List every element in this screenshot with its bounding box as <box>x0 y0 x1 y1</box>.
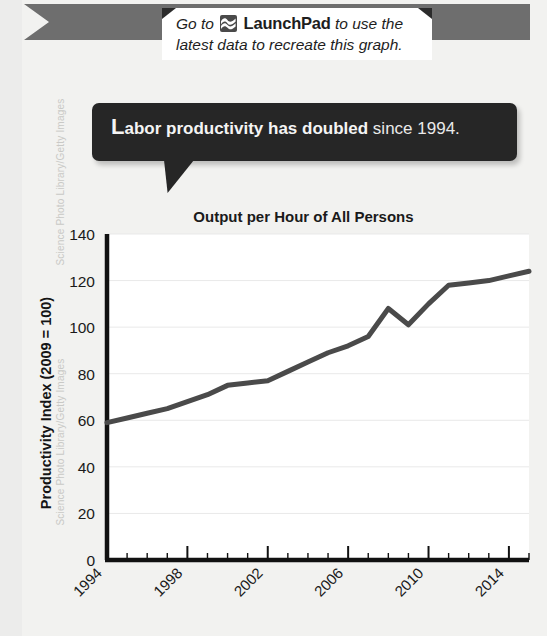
chart-y-tick-label: 40 <box>78 459 96 476</box>
chart-x-tick-label: 1994 <box>70 564 106 600</box>
chart-x-tick-label-group: 1998 <box>150 564 186 600</box>
chart-x-tick-label: 2010 <box>391 564 427 600</box>
chart-y-tick-label: 120 <box>69 273 95 290</box>
chart-x-tick-label-group: 1994 <box>70 564 106 600</box>
chart-x-tick-label-group: 2002 <box>230 564 266 600</box>
chart-y-tick-label: 100 <box>69 319 95 336</box>
chart-x-tick-label-group: 2014 <box>471 564 507 600</box>
chart-y-tick-label: 80 <box>78 366 96 383</box>
chart-x-tick-label: 2002 <box>230 564 266 600</box>
chart-y-tick-label: 20 <box>78 505 96 522</box>
chart-y-tick-label: 140 <box>69 226 95 243</box>
chart-y-tick-label: 60 <box>78 412 96 429</box>
chart-x-tick-label: 2014 <box>471 564 507 600</box>
chart-x-tick-label-group: 2006 <box>311 564 347 600</box>
chart-x-tick-label-group: 2010 <box>391 564 427 600</box>
chart-x-tick-label: 1998 <box>150 564 186 600</box>
chart-x-tick-label: 2006 <box>311 564 347 600</box>
productivity-line-chart: 0204060801001201401994199820022006201020… <box>0 0 547 636</box>
